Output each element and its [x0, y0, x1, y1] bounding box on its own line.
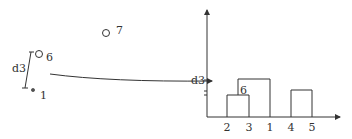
- x-label: 4: [288, 121, 295, 134]
- cluster-label-6: 6: [240, 84, 247, 97]
- point-7-marker: [103, 30, 110, 37]
- point-1-marker: [31, 88, 34, 91]
- point-6-marker: [36, 51, 43, 58]
- point-1-label: 1: [40, 89, 47, 102]
- y-tick-label: d3: [191, 74, 205, 87]
- dendrogram-chart: d3 6 2 3 1 4 5: [191, 10, 340, 134]
- x-label: 2: [224, 121, 231, 134]
- left-panel: d3 6 7 1: [12, 24, 123, 102]
- x-label: 1: [267, 121, 274, 134]
- distance-label: d3: [12, 62, 26, 75]
- x-label: 3: [246, 121, 253, 134]
- diagram-canvas: d3 6 7 1 d3 6 2 3 1 4 5: [0, 0, 352, 139]
- point-6-label: 6: [46, 51, 53, 64]
- mapping-arrow: [50, 74, 212, 81]
- cluster-bar-4-5: [291, 90, 312, 117]
- cluster-bar-2-3: [227, 95, 249, 117]
- x-label: 5: [309, 121, 316, 134]
- point-7-label: 7: [116, 24, 123, 37]
